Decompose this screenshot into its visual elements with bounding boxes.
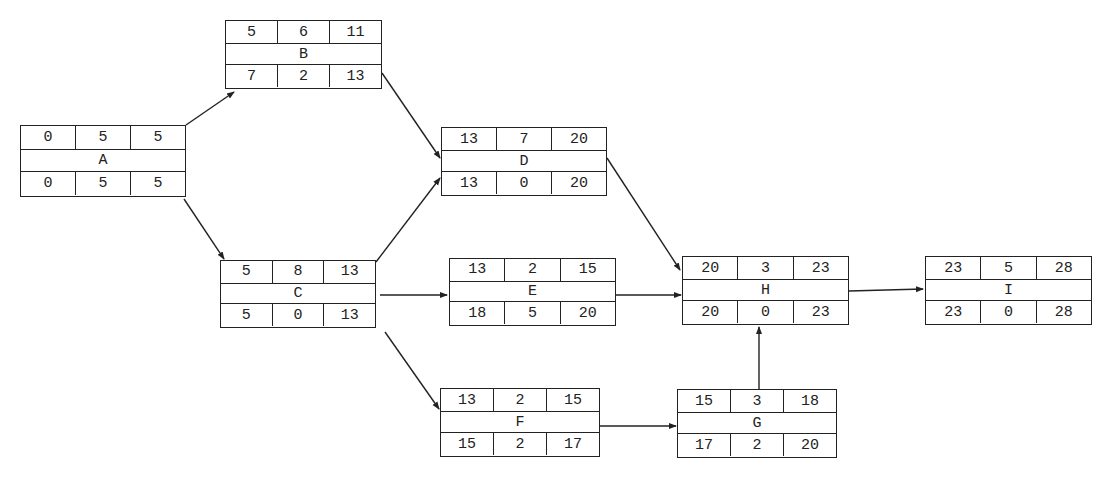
arrow-b-to-d <box>382 73 440 158</box>
activity-name: C <box>221 283 375 305</box>
early-times-row: 0 5 5 <box>21 126 185 149</box>
late-start: 20 <box>683 301 737 323</box>
early-finish: 15 <box>560 259 615 281</box>
activity-name: H <box>683 279 848 301</box>
activity-node-c[interactable]: 5 8 13 C 5 0 13 <box>220 260 376 328</box>
early-times-row: 5 8 13 <box>221 261 375 283</box>
late-times-row: 13 0 20 <box>442 172 606 194</box>
activity-node-d[interactable]: 13 7 20 D 13 0 20 <box>441 127 607 196</box>
total-float: 2 <box>277 65 329 87</box>
early-finish: 11 <box>329 21 381 43</box>
activity-node-b[interactable]: 5 6 11 B 7 2 13 <box>225 20 382 89</box>
duration: 3 <box>730 390 783 412</box>
late-start: 23 <box>926 301 980 323</box>
early-start: 5 <box>226 21 277 43</box>
early-times-row: 23 5 28 <box>926 257 1091 279</box>
duration: 5 <box>980 257 1035 279</box>
duration: 3 <box>737 257 792 279</box>
arrow-d-to-h <box>607 158 680 270</box>
late-times-row: 18 5 20 <box>450 302 615 324</box>
late-start: 7 <box>226 65 277 87</box>
total-float: 2 <box>730 434 783 456</box>
activity-name: I <box>926 279 1091 301</box>
total-float: 0 <box>496 172 551 194</box>
activity-node-f[interactable]: 13 2 15 F 15 2 17 <box>440 388 600 457</box>
activity-node-g[interactable]: 15 3 18 G 17 2 20 <box>677 389 837 458</box>
total-float: 0 <box>272 304 324 326</box>
late-finish: 20 <box>551 172 606 194</box>
late-finish: 13 <box>323 304 375 326</box>
late-times-row: 20 0 23 <box>683 301 848 323</box>
early-start: 13 <box>441 389 493 411</box>
late-start: 18 <box>450 302 504 324</box>
early-start: 0 <box>21 126 75 149</box>
late-start: 5 <box>221 304 272 326</box>
early-start: 15 <box>678 390 730 412</box>
duration: 7 <box>496 128 551 150</box>
late-finish: 23 <box>793 301 848 323</box>
activity-name: G <box>678 412 836 434</box>
duration: 6 <box>277 21 329 43</box>
activity-name: E <box>450 281 615 303</box>
late-finish: 5 <box>130 172 185 195</box>
arrow-c-to-f <box>385 332 439 409</box>
early-finish: 13 <box>323 261 375 283</box>
late-times-row: 7 2 13 <box>226 65 381 87</box>
network-diagram: 0 5 5 A 0 5 5 5 6 11 B 7 2 13 5 8 13 C <box>0 0 1113 479</box>
late-start: 13 <box>442 172 496 194</box>
arrow-c-to-d <box>376 178 440 262</box>
activity-node-e[interactable]: 13 2 15 E 18 5 20 <box>449 258 616 326</box>
arrow-a-to-c <box>184 199 224 259</box>
activity-name: B <box>226 43 381 65</box>
early-start: 23 <box>926 257 980 279</box>
activity-name: F <box>441 411 599 433</box>
early-finish: 28 <box>1036 257 1091 279</box>
early-times-row: 13 2 15 <box>441 389 599 411</box>
late-start: 17 <box>678 434 730 456</box>
late-finish: 20 <box>560 302 615 324</box>
total-float: 0 <box>737 301 792 323</box>
early-start: 13 <box>450 259 504 281</box>
early-times-row: 20 3 23 <box>683 257 848 279</box>
activity-name: D <box>442 150 606 172</box>
total-float: 2 <box>493 433 546 455</box>
early-finish: 15 <box>546 389 599 411</box>
late-times-row: 15 2 17 <box>441 433 599 455</box>
total-float: 0 <box>980 301 1035 323</box>
late-times-row: 5 0 13 <box>221 304 375 326</box>
early-times-row: 5 6 11 <box>226 21 381 43</box>
early-start: 5 <box>221 261 272 283</box>
late-finish: 17 <box>546 433 599 455</box>
late-finish: 13 <box>329 65 381 87</box>
late-times-row: 17 2 20 <box>678 434 836 456</box>
late-start: 0 <box>21 172 75 195</box>
activity-node-i[interactable]: 23 5 28 I 23 0 28 <box>925 256 1092 325</box>
activity-name: A <box>21 149 185 172</box>
late-start: 15 <box>441 433 493 455</box>
arrow-h-to-i <box>849 289 923 291</box>
early-start: 20 <box>683 257 737 279</box>
late-finish: 28 <box>1036 301 1091 323</box>
total-float: 5 <box>75 172 130 195</box>
activity-node-a[interactable]: 0 5 5 A 0 5 5 <box>20 125 186 197</box>
early-finish: 5 <box>130 126 185 149</box>
early-times-row: 15 3 18 <box>678 390 836 412</box>
duration: 5 <box>75 126 130 149</box>
duration: 2 <box>493 389 546 411</box>
activity-node-h[interactable]: 20 3 23 H 20 0 23 <box>682 256 849 325</box>
arrow-a-to-b <box>186 92 234 125</box>
early-times-row: 13 7 20 <box>442 128 606 150</box>
early-finish: 23 <box>793 257 848 279</box>
early-finish: 18 <box>783 390 836 412</box>
late-times-row: 23 0 28 <box>926 301 1091 323</box>
late-finish: 20 <box>783 434 836 456</box>
duration: 2 <box>504 259 559 281</box>
early-start: 13 <box>442 128 496 150</box>
late-times-row: 0 5 5 <box>21 172 185 195</box>
early-finish: 20 <box>551 128 606 150</box>
early-times-row: 13 2 15 <box>450 259 615 281</box>
duration: 8 <box>272 261 324 283</box>
total-float: 5 <box>504 302 559 324</box>
